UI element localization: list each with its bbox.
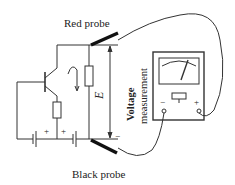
red-probe-label: Red probe bbox=[64, 17, 110, 29]
voltage-label-line1: Voltage bbox=[125, 87, 136, 121]
circuit-diagram: Red probe Black probe E Voltage measurem… bbox=[0, 0, 235, 185]
meter-knob bbox=[172, 93, 186, 99]
black-probe-label: Black probe bbox=[72, 168, 126, 180]
red-probe bbox=[91, 33, 118, 45]
meter-display bbox=[159, 58, 199, 84]
transistor-emitter bbox=[45, 86, 57, 96]
battery-2-plus: + bbox=[61, 126, 66, 136]
black-probe bbox=[91, 140, 117, 153]
battery-1-plus: + bbox=[44, 126, 49, 136]
meter-scale bbox=[162, 61, 196, 66]
voltmeter bbox=[153, 52, 204, 120]
emitter-resistor bbox=[53, 102, 61, 118]
meter-needle bbox=[181, 60, 188, 80]
meter-negative-terminal bbox=[162, 109, 166, 113]
voltage-label-line2: measurement bbox=[138, 68, 149, 124]
meter-positive-terminal bbox=[197, 109, 201, 113]
meter-plus: + bbox=[194, 97, 199, 107]
transistor-collector bbox=[45, 68, 57, 78]
load-resistor bbox=[85, 66, 93, 86]
meter-minus: − bbox=[160, 97, 165, 107]
emf-label: E bbox=[92, 91, 106, 100]
emf-minus: − bbox=[115, 131, 120, 141]
